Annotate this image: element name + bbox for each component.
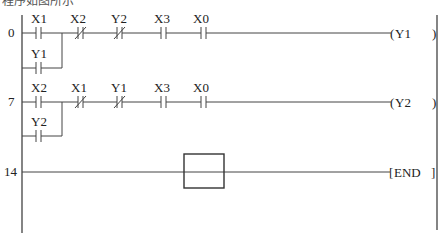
contact-no-icon[interactable]: X3 (154, 11, 170, 39)
instruction-label: END (394, 165, 421, 180)
svg-text:(: ( (390, 26, 394, 41)
contact-label: X0 (193, 11, 209, 26)
contact-no-icon[interactable]: X0 (193, 80, 209, 108)
contact-nc-icon[interactable]: X2 (70, 11, 86, 39)
step-number: 14 (4, 164, 18, 179)
contact-label: X2 (70, 11, 86, 26)
coil-label: Y2 (395, 95, 411, 110)
svg-text:): ) (432, 95, 436, 110)
svg-text:]: ] (431, 165, 435, 180)
contact-no-icon[interactable]: X3 (154, 80, 170, 108)
contact-no-icon[interactable]: X0 (193, 11, 209, 39)
contact-label: X0 (193, 80, 209, 95)
contact-label: X3 (154, 80, 170, 95)
rung-7[interactable]: 7 X2 X1 Y1 X3 X0 ( Y2 (8, 80, 436, 142)
contact-label: X2 (31, 80, 47, 95)
ladder-diagram: 0 X1 X2 Y2 X3 X0 (0, 0, 444, 241)
parallel-branch[interactable]: Y2 (22, 102, 62, 142)
rung-0[interactable]: 0 X1 X2 Y2 X3 X0 (8, 11, 436, 74)
coil-icon[interactable]: ( Y2 ) (390, 95, 436, 110)
coil-label: Y1 (395, 26, 411, 41)
svg-text:(: ( (390, 95, 394, 110)
contact-no-icon[interactable]: X1 (31, 11, 47, 39)
contact-nc-icon[interactable]: Y1 (111, 80, 127, 108)
parallel-branch[interactable]: Y1 (22, 33, 62, 74)
svg-text:[: [ (389, 165, 393, 180)
rung-14[interactable]: 14 [ END ] (4, 154, 435, 188)
contact-label: Y2 (31, 114, 47, 129)
contact-label: X3 (154, 11, 170, 26)
cursor-box[interactable] (184, 154, 224, 188)
contact-label: Y1 (31, 46, 47, 61)
contact-nc-icon[interactable]: Y2 (111, 11, 127, 39)
step-number: 0 (8, 25, 15, 40)
contact-nc-icon[interactable]: X1 (71, 80, 87, 108)
step-number: 7 (8, 94, 15, 109)
svg-text:): ) (432, 26, 436, 41)
contact-label: X1 (31, 11, 47, 26)
coil-icon[interactable]: ( Y1 ) (390, 26, 436, 41)
contact-no-icon[interactable]: X2 (31, 80, 47, 108)
contact-label: Y1 (111, 80, 127, 95)
contact-label: X1 (71, 80, 87, 95)
contact-label: Y2 (111, 11, 127, 26)
end-instruction-icon[interactable]: [ END ] (389, 165, 435, 180)
